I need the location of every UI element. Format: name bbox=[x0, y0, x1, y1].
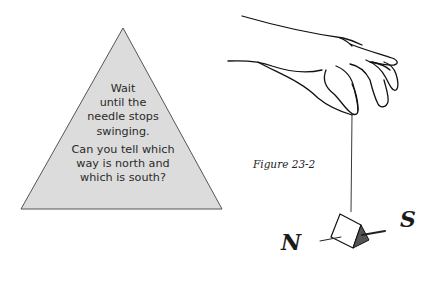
hand-illustration bbox=[228, 16, 398, 115]
paper-holder-icon bbox=[331, 214, 369, 248]
north-pole-label: N bbox=[281, 229, 301, 255]
south-pole-label: S bbox=[400, 206, 416, 232]
string-line bbox=[351, 114, 352, 212]
figure-caption: Figure 23-2 bbox=[253, 158, 315, 170]
compass-figure-illustration bbox=[0, 0, 439, 282]
